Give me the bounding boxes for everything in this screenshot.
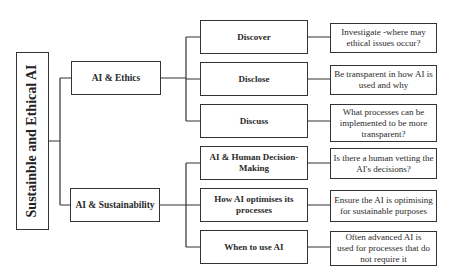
connector-ethics — [160, 37, 200, 121]
node-label: AI & Human Decision-Making — [209, 152, 299, 174]
detail-discuss: What processes can be implemented to be … — [330, 104, 437, 142]
connector-sustainability — [160, 163, 200, 247]
detail-ai-human-decision-making: Is there a human vetting the AI's decisi… — [330, 148, 437, 179]
detail-text: Be transparent in how AI is used and why — [333, 69, 434, 91]
connector-root — [49, 78, 71, 205]
branch-ai-ethics: AI & Ethics — [71, 61, 161, 95]
detail-text: Investigate -where may ethical issues oc… — [341, 27, 426, 49]
detail-text: Often advanced AI is used for processes … — [337, 232, 430, 265]
branch-label: AI & Ethics — [92, 73, 141, 83]
node-label: Discover — [237, 32, 271, 43]
root-label: Sustainble and Ethical AI — [25, 65, 41, 218]
connector-details — [308, 37, 330, 247]
detail-disclose: Be transparent in how AI is used and why — [330, 65, 437, 95]
node-when-to-use-ai: When to use AI — [200, 230, 308, 264]
detail-how-ai-optimises: Ensure the AI is optimising for sustaina… — [330, 190, 437, 222]
detail-text: Is there a human vetting the AI's decisi… — [333, 153, 434, 175]
detail-text: Ensure the AI is optimising for sustaina… — [333, 195, 434, 217]
node-label: When to use AI — [224, 242, 283, 253]
detail-when-to-use-ai: Often advanced AI is used for processes … — [330, 231, 437, 266]
detail-discover: Investigate -where may ethical issues oc… — [330, 23, 437, 53]
node-label: How AI optimises its processes — [211, 194, 297, 216]
node-how-ai-optimises: How AI optimises its processes — [200, 188, 308, 222]
node-disclose: Disclose — [200, 62, 308, 96]
root-node: Sustainble and Ethical AI — [16, 52, 49, 230]
detail-text: What processes can be implemented to be … — [339, 107, 428, 140]
node-ai-human-decision-making: AI & Human Decision-Making — [200, 146, 308, 180]
branch-ai-sustainability: AI & Sustainability — [70, 188, 160, 222]
node-discuss: Discuss — [200, 104, 308, 138]
node-label: Disclose — [239, 74, 270, 85]
branch-label: AI & Sustainability — [75, 200, 154, 210]
node-label: Discuss — [240, 116, 269, 127]
node-discover: Discover — [200, 20, 308, 54]
